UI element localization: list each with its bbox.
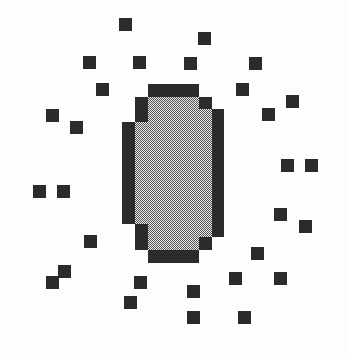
disc-outline-cell — [160, 249, 173, 262]
disc-fill-cell — [160, 160, 173, 173]
disc-fill-cell — [173, 109, 186, 122]
disc-fill-cell — [173, 148, 186, 161]
spark-square — [46, 109, 59, 122]
spark-square — [299, 220, 312, 233]
disc-outline-cell — [211, 224, 224, 237]
spark-square — [124, 296, 137, 309]
disc-fill-cell — [186, 109, 199, 122]
disc-fill-cell — [160, 198, 173, 211]
disc-outline-cell — [122, 160, 135, 173]
disc-fill-cell — [198, 173, 211, 186]
disc-fill-cell — [186, 186, 199, 199]
disc-fill-cell — [160, 97, 173, 110]
disc-fill-cell — [135, 198, 148, 211]
disc-fill-cell — [148, 186, 161, 199]
disc-fill-cell — [173, 122, 186, 135]
disc-outline-cell — [211, 135, 224, 148]
spark-square — [249, 57, 262, 70]
disc-fill-cell — [160, 237, 173, 250]
spark-square — [187, 311, 200, 324]
disc-fill-cell — [173, 186, 186, 199]
disc-outline-cell — [135, 109, 148, 122]
pixel-sun-graphic — [0, 0, 349, 358]
spark-square — [187, 285, 200, 298]
disc-outline-cell — [122, 135, 135, 148]
disc-fill-cell — [198, 198, 211, 211]
disc-outline-cell — [211, 198, 224, 211]
disc-fill-cell — [148, 135, 161, 148]
disc-outline-cell — [122, 198, 135, 211]
spark-square — [236, 83, 249, 96]
spark-square — [184, 57, 197, 70]
disc-fill-cell — [198, 135, 211, 148]
disc-fill-cell — [198, 211, 211, 224]
disc-fill-cell — [186, 211, 199, 224]
disc-fill-cell — [186, 148, 199, 161]
spark-square — [229, 272, 242, 285]
spark-square — [281, 159, 294, 172]
disc-outline-cell — [211, 160, 224, 173]
disc-fill-cell — [186, 198, 199, 211]
disc-fill-cell — [173, 173, 186, 186]
disc-fill-cell — [160, 224, 173, 237]
disc-fill-cell — [173, 224, 186, 237]
disc-outline-cell — [198, 97, 211, 110]
disc-fill-cell — [173, 211, 186, 224]
disc-fill-cell — [135, 160, 148, 173]
pixel-sun-svg — [0, 0, 349, 358]
spark-square — [274, 208, 287, 221]
disc-fill-cell — [135, 122, 148, 135]
spark-square — [46, 276, 59, 289]
spark-square — [134, 276, 147, 289]
disc-fill-cell — [148, 160, 161, 173]
disc-fill-cell — [186, 97, 199, 110]
spark-square — [286, 95, 299, 108]
spark-square — [57, 185, 70, 198]
disc-fill-cell — [135, 135, 148, 148]
disc-fill-cell — [148, 148, 161, 161]
disc-outline-cell — [160, 84, 173, 97]
disc-fill-cell — [186, 237, 199, 250]
disc-fill-cell — [173, 237, 186, 250]
disc-outline-cell — [211, 122, 224, 135]
disc-fill-cell — [198, 186, 211, 199]
disc-fill-cell — [135, 173, 148, 186]
spark-square — [274, 272, 287, 285]
disc-fill-cell — [148, 224, 161, 237]
disc-fill-cell — [148, 122, 161, 135]
disc-outline-cell — [173, 249, 186, 262]
disc-outline-cell — [135, 224, 148, 237]
spark-square — [119, 18, 132, 31]
spark-square — [198, 32, 211, 45]
disc-fill-cell — [160, 211, 173, 224]
disc-fill-cell — [148, 211, 161, 224]
disc-fill-cell — [173, 160, 186, 173]
disc-fill-cell — [135, 148, 148, 161]
disc-fill-cell — [135, 186, 148, 199]
disc-fill-cell — [135, 211, 148, 224]
disc-fill-cell — [160, 173, 173, 186]
disc-outline-cell — [122, 122, 135, 135]
spark-square — [305, 159, 318, 172]
disc-outline-cell — [148, 84, 161, 97]
disc-outline-cell — [198, 237, 211, 250]
disc-outline-cell — [135, 97, 148, 110]
disc-fill-cell — [160, 109, 173, 122]
disc-fill-cell — [148, 173, 161, 186]
spark-square — [262, 108, 275, 121]
disc-outline-cell — [186, 249, 199, 262]
disc-fill-cell — [160, 122, 173, 135]
disc-outline-cell — [135, 237, 148, 250]
spark-square — [83, 56, 96, 69]
disc-fill-cell — [173, 198, 186, 211]
disc-fill-cell — [173, 135, 186, 148]
disc-fill-cell — [186, 173, 199, 186]
disc-fill-cell — [186, 160, 199, 173]
disc-fill-cell — [173, 97, 186, 110]
disc-fill-cell — [160, 148, 173, 161]
disc-fill-cell — [186, 135, 199, 148]
disc-fill-cell — [186, 224, 199, 237]
spark-square — [33, 185, 46, 198]
disc-outline-cell — [122, 148, 135, 161]
spark-square — [96, 83, 109, 96]
